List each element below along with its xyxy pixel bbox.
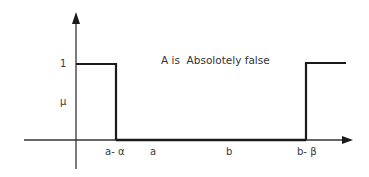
x-tick-b: b: [226, 146, 232, 158]
y-axis-arrowhead-icon: [72, 12, 80, 24]
diagram-title: A is Absolotely false: [161, 54, 270, 66]
membership-right-segment: [306, 63, 346, 140]
y-tick-one: 1: [60, 58, 66, 70]
membership-left-segment: [76, 64, 116, 140]
x-tick-b-minus-beta: b- β: [297, 146, 317, 158]
y-axis-label-mu: μ: [60, 96, 66, 108]
x-axis-arrowhead-icon: [342, 136, 353, 144]
x-tick-a: a: [150, 146, 156, 158]
x-tick-a-minus-alpha: a- α: [105, 146, 125, 158]
